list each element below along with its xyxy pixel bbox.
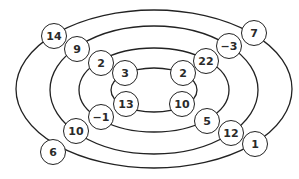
number-node-bottom-right-third: 5 xyxy=(194,108,220,134)
number-node-bottom-left-inner: 13 xyxy=(113,91,139,117)
number-node-top-right-third: 22 xyxy=(193,48,219,74)
number-node-top-right-outer: 7 xyxy=(241,20,267,46)
number-node-bottom-right-inner: 10 xyxy=(169,91,195,117)
number-node-top-left-second: 9 xyxy=(64,36,90,62)
number-node-bottom-right-second: 12 xyxy=(218,120,244,146)
concentric-ellipse-diagram: 149237−322213−1106105121 xyxy=(0,0,299,179)
number-node-bottom-right-outer: 1 xyxy=(242,131,268,157)
number-node-top-left-inner: 3 xyxy=(112,60,138,86)
number-node-bottom-left-third: −1 xyxy=(88,104,114,130)
number-node-bottom-left-outer: 6 xyxy=(40,139,66,165)
number-node-top-left-outer: 14 xyxy=(41,23,67,49)
number-node-top-left-third: 2 xyxy=(88,50,114,76)
number-node-bottom-left-second: 10 xyxy=(63,118,89,144)
number-node-top-right-inner: 2 xyxy=(170,60,196,86)
number-node-top-right-second: −3 xyxy=(216,33,242,59)
